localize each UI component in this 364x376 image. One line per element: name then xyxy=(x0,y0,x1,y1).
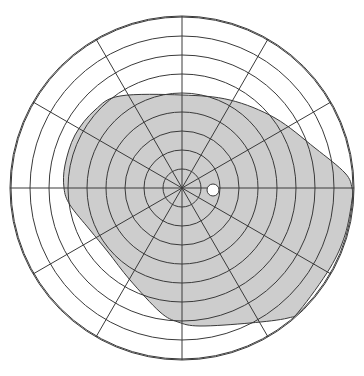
blind-spot xyxy=(207,184,219,196)
blind-spot-marker xyxy=(207,184,219,196)
meridian-spokes xyxy=(10,16,354,360)
visual-field-diagram xyxy=(0,0,364,376)
